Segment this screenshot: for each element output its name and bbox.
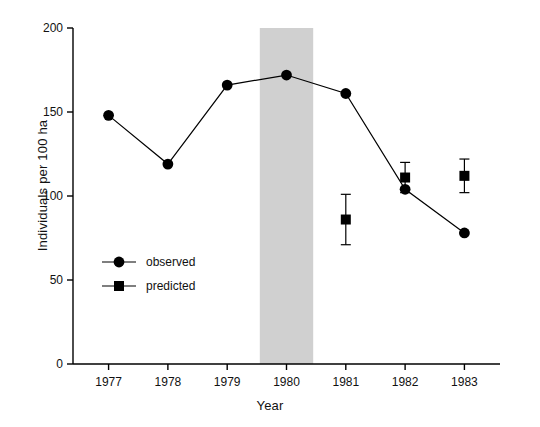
y-tick-label: 0 (56, 357, 63, 371)
data-point-predicted (341, 215, 351, 225)
x-tick-label: 1979 (214, 375, 241, 389)
y-tick-label: 200 (43, 21, 63, 35)
data-point-observed (281, 70, 292, 81)
x-tick-label: 1978 (155, 375, 182, 389)
x-tick-label: 1977 (95, 375, 122, 389)
legend-label-predicted: predicted (146, 279, 195, 293)
x-tick-group: 1977197819791980198119821983 (95, 364, 478, 389)
data-point-predicted (459, 171, 469, 181)
data-point-predicted (400, 173, 410, 183)
x-tick-label: 1981 (332, 375, 359, 389)
x-tick-label: 1983 (451, 375, 478, 389)
plot-area: 050100150200 197719781979198019811982198… (0, 0, 540, 427)
y-tick-label: 150 (43, 105, 63, 119)
chart-container: Individuals per 100 ha Year 050100150200… (0, 0, 540, 427)
chart-legend: observedpredicted (102, 255, 195, 293)
legend-marker-observed (114, 257, 125, 268)
data-point-observed (222, 80, 233, 91)
y-tick-group: 050100150200 (43, 21, 73, 371)
x-tick-label: 1980 (273, 375, 300, 389)
legend-label-observed: observed (146, 255, 195, 269)
data-point-observed (459, 228, 470, 239)
data-point-observed (103, 110, 114, 121)
data-point-observed (162, 159, 173, 170)
data-point-observed (340, 88, 351, 99)
y-tick-label: 50 (50, 273, 64, 287)
x-tick-label: 1982 (392, 375, 419, 389)
legend-marker-predicted (114, 281, 124, 291)
y-tick-label: 100 (43, 189, 63, 203)
